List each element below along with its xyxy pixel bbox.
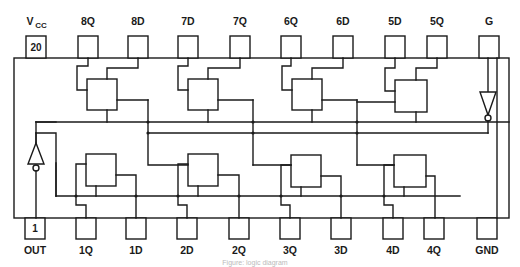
pin-1d <box>126 218 146 239</box>
label-1q: 1Q <box>79 244 93 256</box>
latch-7 <box>188 79 218 110</box>
inverter-triangle <box>480 92 496 115</box>
label-7d: 7D <box>181 15 195 27</box>
label-2d: 2D <box>180 244 194 256</box>
pin-number-20: 20 <box>30 42 42 53</box>
pin-g <box>479 36 499 58</box>
buffer-bubble <box>33 165 39 171</box>
label-vcc: V <box>26 15 33 27</box>
label-6d: 6D <box>336 15 350 27</box>
inverter-bubble <box>485 115 491 121</box>
pin-2q <box>229 218 249 239</box>
latch-4 <box>394 155 426 187</box>
bottom-pins <box>25 218 497 239</box>
pin-7d <box>178 36 198 58</box>
pin-8d <box>128 36 148 58</box>
buffer-triangle <box>28 143 44 164</box>
pin-3d <box>331 218 351 239</box>
label-8q: 8Q <box>81 15 95 27</box>
label-4q: 4Q <box>427 244 441 256</box>
pin-5d <box>385 36 405 58</box>
pin-7q <box>230 36 250 58</box>
pin-4q <box>424 218 444 239</box>
pin-4d <box>383 218 403 239</box>
logic-diagram: 20 1 V CC 8Q 8D 7D 7Q 6Q 6D 5D 5Q G OUT … <box>0 0 520 267</box>
lower-latches <box>56 133 435 218</box>
pin-5q <box>427 36 447 58</box>
junctions <box>74 120 385 197</box>
latch-5 <box>395 80 427 112</box>
pin-2d <box>177 218 197 239</box>
pin-6q <box>281 36 301 58</box>
label-8d: 8D <box>131 15 145 27</box>
pin-8q <box>78 36 98 58</box>
latch-8 <box>87 79 117 110</box>
label-6q: 6Q <box>284 15 298 27</box>
pin-1q <box>76 218 96 239</box>
top-pins <box>26 36 499 58</box>
pin-3q <box>280 218 300 239</box>
label-7q: 7Q <box>233 15 247 27</box>
label-g: G <box>485 15 493 27</box>
inverter-g <box>480 58 497 218</box>
figure-caption: Figure: logic diagram <box>222 259 288 267</box>
pin-number-1: 1 <box>32 223 38 234</box>
pin-gnd <box>477 218 497 239</box>
label-gnd: GND <box>475 244 499 256</box>
output-buffer <box>28 122 56 218</box>
label-vcc-sub: CC <box>35 21 47 30</box>
label-4d: 4D <box>386 244 400 256</box>
label-5d: 5D <box>388 15 402 27</box>
latch-2 <box>188 154 218 186</box>
label-2q: 2Q <box>232 244 246 256</box>
upper-latches <box>77 58 437 122</box>
bottom-labels: OUT 1Q 1D 2D 2Q 3Q 3D 4D 4Q GND <box>24 244 499 256</box>
top-labels: V CC 8Q 8D 7D 7Q 6Q 6D 5D 5Q G <box>26 15 493 30</box>
label-out: OUT <box>24 244 47 256</box>
label-3d: 3D <box>334 244 348 256</box>
label-3q: 3Q <box>283 244 297 256</box>
label-1d: 1D <box>129 244 143 256</box>
latch-3 <box>291 155 321 187</box>
latch-6 <box>292 79 322 110</box>
pin-6d <box>333 36 353 58</box>
latch-1 <box>86 154 116 186</box>
label-5q: 5Q <box>430 15 444 27</box>
